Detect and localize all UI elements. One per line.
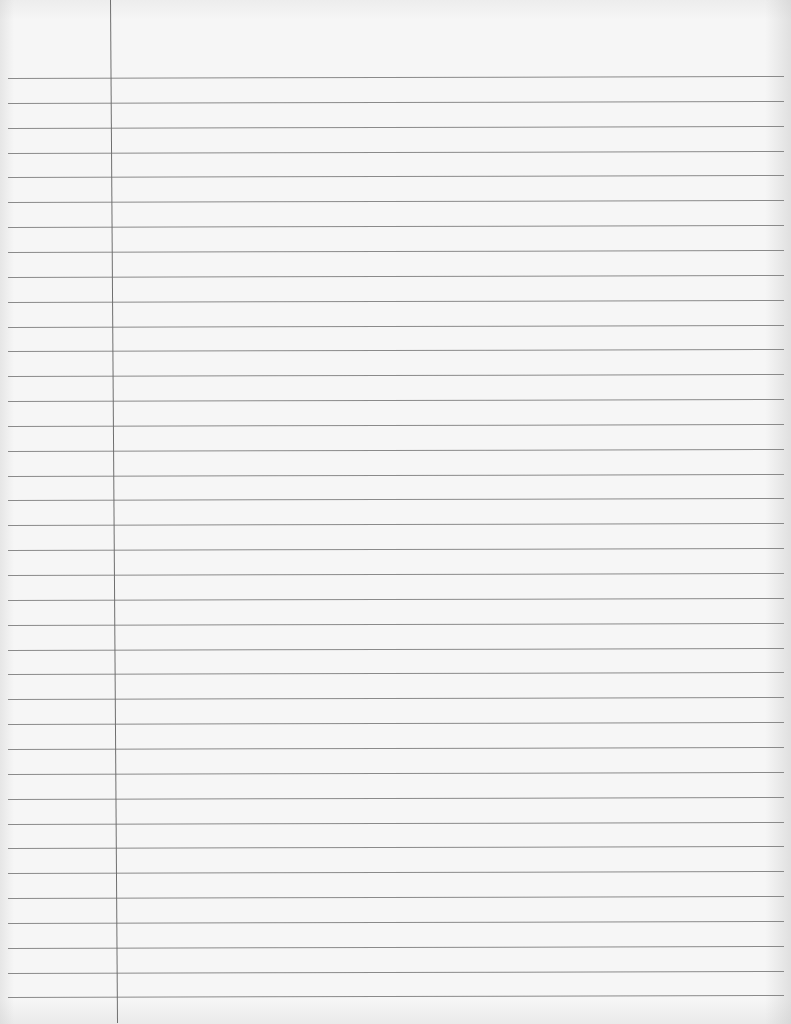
ruled-line	[8, 300, 784, 303]
ruled-line	[8, 324, 784, 327]
ruled-line	[8, 697, 784, 700]
ruled-line	[8, 946, 784, 949]
ruled-line	[8, 151, 784, 154]
ruled-line	[8, 126, 784, 129]
ruled-line	[8, 175, 784, 178]
ruled-line	[8, 747, 784, 750]
ruled-line	[8, 871, 784, 874]
ruled-line	[8, 498, 784, 501]
ruled-line	[8, 449, 784, 452]
ruled-line	[8, 523, 784, 526]
ruled-line	[8, 573, 784, 576]
ruled-line	[8, 598, 784, 601]
ruled-line	[8, 200, 784, 203]
ruled-line	[8, 250, 784, 253]
ruled-line	[8, 275, 784, 278]
ruled-line	[8, 548, 784, 551]
lined-paper-sheet	[0, 0, 791, 1024]
ruled-line	[8, 672, 784, 675]
ruled-line	[8, 349, 784, 352]
ruled-line	[8, 474, 784, 477]
ruled-line	[8, 623, 784, 626]
ruled-line	[8, 921, 784, 924]
ruled-line	[8, 374, 784, 377]
ruled-line	[8, 995, 784, 998]
ruled-line	[8, 225, 784, 228]
ruled-line	[8, 821, 784, 824]
ruled-line	[8, 648, 784, 651]
ruled-line	[8, 772, 784, 775]
ruled-line	[8, 896, 784, 899]
ruled-line	[8, 797, 784, 800]
ruled-line	[8, 846, 784, 849]
ruled-line	[8, 76, 784, 79]
ruled-line	[8, 399, 784, 402]
ruled-line	[8, 722, 784, 725]
ruled-line	[8, 424, 784, 427]
ruled-line	[8, 101, 784, 104]
ruled-line	[8, 971, 784, 974]
